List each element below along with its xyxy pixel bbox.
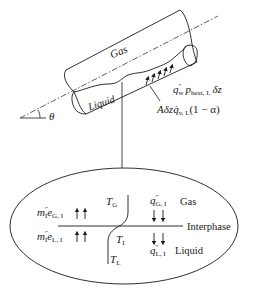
- heat-arrow-icon: [158, 72, 160, 79]
- angle-arc: [38, 110, 40, 118]
- wall-heat-label: q″wpheat, Lδz: [173, 82, 223, 97]
- T-interface-label: TI: [116, 233, 125, 247]
- heat-flux-arrows: [154, 210, 163, 243]
- wall-heat-flux-arrows: [146, 66, 172, 101]
- pipe-centerline: [20, 16, 218, 118]
- pipe-liquid-label: Liquid: [86, 93, 117, 112]
- theta-label: θ: [49, 110, 55, 122]
- liquid-gas-interface: [74, 46, 186, 92]
- interphase-label: Interphase: [187, 221, 231, 232]
- pipe-top-wall: [66, 10, 180, 70]
- volumetric-heat-label: Aδzq̇v, L(1 − α): [156, 103, 220, 117]
- heat-flux-liquid-label: q″L, I: [150, 243, 166, 258]
- heat-arrow-icon: [170, 66, 172, 73]
- detail-gas-label: Gas: [180, 196, 196, 207]
- mass-energy-gas-label: m″IeG, I: [37, 205, 64, 220]
- mass-energy-liquid-label: m″IeL, I: [37, 229, 63, 244]
- T-liquid-label: TL: [110, 253, 120, 267]
- heat-arrow-icon: [152, 75, 154, 82]
- pipe-gas-label: Gas: [108, 43, 129, 61]
- inclined-pipe: [20, 10, 218, 118]
- heat-arrow-icon: [164, 69, 166, 76]
- two-phase-pipe-diagram: θ Gas Liquid q″wpheat, Lδz Aδzq̇v, L(1 −…: [0, 0, 261, 290]
- T-gas-label: TG: [106, 195, 117, 209]
- heat-arrow-icon: [146, 78, 148, 85]
- volumetric-heat-leader: [150, 86, 160, 101]
- heat-flux-gas-label: q″G, I: [150, 193, 167, 208]
- detail-liquid-label: Liquid: [175, 245, 204, 256]
